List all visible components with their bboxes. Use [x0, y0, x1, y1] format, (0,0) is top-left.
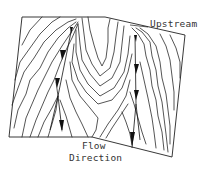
arrow-icon: [59, 120, 64, 132]
contours-valley: [60, 17, 132, 138]
upstream-label: Upstream: [150, 19, 197, 29]
right-flow-path: [130, 35, 140, 148]
arrow-icon: [134, 35, 137, 42]
direction-label: Direction: [69, 153, 122, 163]
arrow-icon: [60, 50, 66, 60]
flow-label: Flow: [82, 141, 106, 151]
arrow-icon: [134, 90, 139, 100]
contours-left: [12, 17, 78, 137]
arrow-icon: [134, 64, 139, 74]
